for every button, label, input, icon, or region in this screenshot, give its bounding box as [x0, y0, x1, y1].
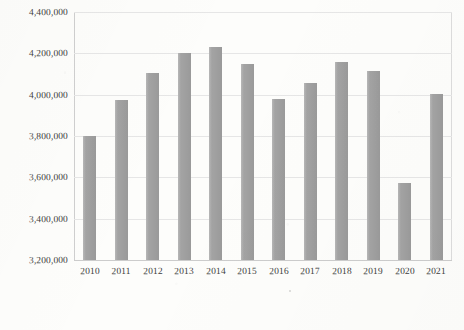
- bar-2011: [115, 100, 128, 260]
- bar-2012: [146, 73, 159, 260]
- bar-2018: [335, 62, 348, 260]
- y-axis-tick-label: 3,600,000: [29, 172, 68, 182]
- x-axis-tick-label: 2017: [300, 266, 320, 276]
- x-axis-tick-label: 2021: [426, 266, 446, 276]
- x-axis-tick-label: 2016: [269, 266, 289, 276]
- bar-2021: [430, 94, 443, 260]
- bar-2016: [272, 99, 285, 260]
- bar-2019: [367, 71, 380, 260]
- y-axis-tick-label: 4,400,000: [29, 7, 68, 17]
- x-axis-tick-label: 2010: [80, 266, 100, 276]
- x-axis-tick-label: 2018: [332, 266, 352, 276]
- bar-2020: [398, 183, 411, 261]
- x-axis-tick-label: 2019: [363, 266, 383, 276]
- x-axis-tick-label: 2012: [143, 266, 163, 276]
- bar-2013: [178, 53, 191, 260]
- x-axis-tick-label: 2011: [112, 266, 131, 276]
- bar-series: [74, 12, 452, 261]
- bar-2014: [209, 47, 222, 260]
- bar-2015: [241, 64, 254, 260]
- bar-2017: [304, 83, 317, 260]
- x-axis-tick-label: 2015: [237, 266, 257, 276]
- x-axis-tick-label: 2014: [206, 266, 226, 276]
- y-axis-tick-label: 4,200,000: [29, 48, 68, 58]
- y-axis-tick-label: 3,200,000: [29, 255, 68, 265]
- x-axis-tick-label: 2013: [174, 266, 194, 276]
- y-axis-tick-label: 3,800,000: [29, 131, 68, 141]
- bar-chart-figure: 3,200,0003,400,0003,600,0003,800,0004,00…: [0, 0, 464, 330]
- x-axis-tick-label: 2020: [395, 266, 415, 276]
- scan-speck: [289, 290, 291, 292]
- y-axis-tick-label: 3,400,000: [29, 214, 68, 224]
- x-axis-labels: 2010201120122013201420152016201720182019…: [74, 264, 452, 286]
- bar-2010: [83, 136, 96, 260]
- y-axis-labels: 3,200,0003,400,0003,600,0003,800,0004,00…: [0, 12, 68, 261]
- y-axis-tick-label: 4,000,000: [29, 90, 68, 100]
- plot-area: [74, 12, 452, 261]
